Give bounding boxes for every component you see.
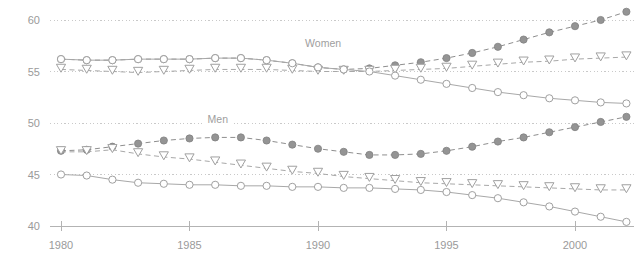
data-point-marker bbox=[185, 65, 194, 73]
data-point-marker bbox=[366, 151, 373, 158]
data-point-marker bbox=[417, 150, 424, 157]
data-point-marker bbox=[520, 92, 527, 99]
data-point-marker bbox=[546, 29, 553, 36]
data-point-marker bbox=[159, 66, 168, 74]
data-point-marker bbox=[313, 168, 322, 176]
data-point-marker bbox=[442, 63, 451, 71]
data-point-marker bbox=[494, 195, 501, 202]
data-point-marker bbox=[570, 184, 579, 192]
data-point-marker bbox=[134, 149, 143, 157]
data-point-marker bbox=[469, 143, 476, 150]
data-point-marker bbox=[314, 183, 321, 190]
x-tick-label-1995: 1995 bbox=[434, 239, 458, 251]
data-point-marker bbox=[494, 138, 501, 145]
data-point-marker bbox=[623, 100, 630, 107]
data-point-marker bbox=[443, 80, 450, 87]
data-point-marker bbox=[109, 176, 116, 183]
data-point-marker bbox=[263, 137, 270, 144]
series-3 bbox=[57, 113, 630, 158]
data-point-marker bbox=[597, 118, 604, 125]
data-point-marker bbox=[57, 56, 64, 63]
data-point-marker bbox=[545, 183, 554, 191]
series-0 bbox=[57, 8, 630, 73]
data-point-marker bbox=[417, 186, 424, 193]
data-point-marker bbox=[134, 67, 143, 75]
data-point-marker bbox=[494, 89, 501, 96]
data-point-marker bbox=[185, 154, 194, 162]
data-point-marker bbox=[623, 8, 630, 15]
data-point-marker bbox=[493, 59, 502, 67]
data-point-marker bbox=[288, 166, 297, 174]
data-point-marker bbox=[596, 185, 605, 193]
data-point-marker bbox=[443, 55, 450, 62]
y-tick-label-60: 60 bbox=[28, 14, 40, 26]
data-point-marker bbox=[392, 185, 399, 192]
data-point-marker bbox=[366, 184, 373, 191]
data-point-marker bbox=[289, 141, 296, 148]
y-tick-label-45: 45 bbox=[28, 169, 40, 181]
data-point-marker bbox=[520, 134, 527, 141]
data-point-marker bbox=[468, 61, 477, 69]
data-point-marker bbox=[571, 208, 578, 215]
data-point-marker bbox=[520, 199, 527, 206]
data-point-marker bbox=[186, 181, 193, 188]
data-point-marker bbox=[416, 178, 425, 186]
data-point-marker bbox=[443, 147, 450, 154]
data-point-marker bbox=[135, 140, 142, 147]
data-point-marker bbox=[340, 184, 347, 191]
data-point-marker bbox=[263, 57, 270, 64]
chart-container: 404550556019801985199019952000WomenMen bbox=[0, 0, 634, 266]
data-point-marker bbox=[236, 160, 245, 168]
data-point-marker bbox=[392, 72, 399, 79]
line-chart: 404550556019801985199019952000WomenMen bbox=[0, 0, 634, 266]
data-point-marker bbox=[83, 57, 90, 64]
series-annotation-women: Women bbox=[305, 37, 341, 49]
data-point-marker bbox=[519, 182, 528, 190]
data-point-marker bbox=[443, 188, 450, 195]
data-point-marker bbox=[417, 76, 424, 83]
data-point-marker bbox=[160, 137, 167, 144]
data-point-marker bbox=[340, 148, 347, 155]
data-point-marker bbox=[57, 171, 64, 178]
data-point-marker bbox=[469, 192, 476, 199]
data-point-marker bbox=[83, 172, 90, 179]
data-point-marker bbox=[571, 97, 578, 104]
data-point-marker bbox=[365, 173, 374, 181]
data-point-marker bbox=[468, 180, 477, 188]
series-line bbox=[61, 12, 626, 70]
data-point-marker bbox=[546, 203, 553, 210]
data-point-marker bbox=[571, 23, 578, 30]
series-2 bbox=[57, 55, 630, 108]
data-point-marker bbox=[622, 185, 631, 193]
data-point-marker bbox=[494, 43, 501, 50]
data-point-marker bbox=[520, 36, 527, 43]
data-point-marker bbox=[596, 53, 605, 61]
data-point-marker bbox=[597, 16, 604, 23]
data-point-marker bbox=[442, 179, 451, 187]
data-point-marker bbox=[263, 182, 270, 189]
x-tick-label-2000: 2000 bbox=[563, 239, 587, 251]
data-point-marker bbox=[546, 95, 553, 102]
data-point-marker bbox=[546, 129, 553, 136]
data-point-marker bbox=[469, 49, 476, 56]
data-point-marker bbox=[186, 135, 193, 142]
data-point-marker bbox=[159, 152, 168, 160]
data-point-marker bbox=[571, 124, 578, 131]
data-point-marker bbox=[289, 60, 296, 67]
data-point-marker bbox=[212, 55, 219, 62]
data-point-marker bbox=[469, 84, 476, 91]
data-point-marker bbox=[237, 134, 244, 141]
y-tick-label-50: 50 bbox=[28, 117, 40, 129]
x-tick-label-1990: 1990 bbox=[306, 239, 330, 251]
data-point-marker bbox=[135, 56, 142, 63]
data-point-marker bbox=[109, 57, 116, 64]
y-tick-label-40: 40 bbox=[28, 220, 40, 232]
data-point-marker bbox=[623, 113, 630, 120]
series-line bbox=[61, 58, 626, 103]
data-point-marker bbox=[262, 163, 271, 171]
data-point-marker bbox=[545, 56, 554, 64]
data-point-marker bbox=[211, 64, 220, 72]
data-point-marker bbox=[340, 66, 347, 73]
x-tick-label-1980: 1980 bbox=[49, 239, 73, 251]
data-point-marker bbox=[135, 179, 142, 186]
